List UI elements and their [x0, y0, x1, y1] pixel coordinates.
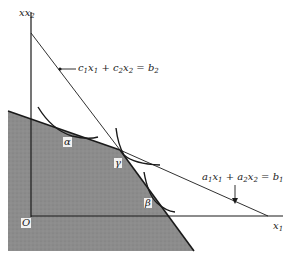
constraint-b2-label: c1x1 + c2x2 = b2 [78, 63, 159, 75]
x1-axis-label: x1 [273, 221, 283, 233]
plus-sign: + [101, 62, 109, 73]
plus-sign: + [226, 171, 234, 182]
diagram-canvas [0, 0, 295, 263]
sub: 2 [129, 67, 133, 75]
sub: 1 [94, 67, 98, 75]
point-alpha-label: α [63, 137, 72, 147]
lp-diagram: xx2 x1 O α γ β c1x1 + c2x2 = b2 a1x1 + a… [0, 0, 295, 263]
sub: 1 [218, 176, 222, 184]
sub: 1 [279, 176, 283, 184]
point-beta-label: β [144, 198, 152, 208]
sub: 2 [154, 67, 158, 75]
x1-subscript: 1 [279, 225, 283, 233]
equals-sign: = [136, 62, 144, 73]
b2-label-dot [58, 67, 61, 70]
feasible-region [8, 111, 194, 251]
constraint-b1-label: a1x1 + a2x2 = b1 [202, 172, 284, 184]
origin-label: O [21, 218, 31, 228]
x2-subscript: 2 [30, 12, 34, 20]
sub: 2 [253, 176, 257, 184]
b1-arrowhead-icon [232, 198, 238, 204]
equals-sign: = [261, 171, 269, 182]
x2-axis-label: xx2 [19, 8, 35, 20]
point-gamma-label: γ [114, 158, 122, 168]
